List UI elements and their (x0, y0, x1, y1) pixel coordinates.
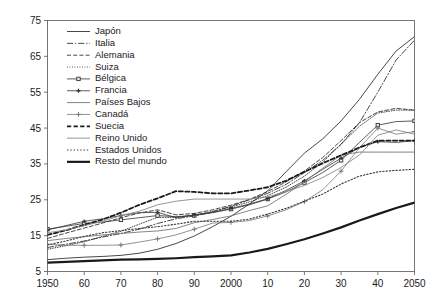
data-point-marker (156, 214, 159, 217)
legend-label: Canadá (95, 108, 129, 119)
legend-label: Resto del mundo (95, 155, 167, 166)
legend-marker (76, 112, 81, 117)
x-axis-tick-label: 2050 (403, 278, 426, 289)
legend-item[interactable]: Bélgica (67, 72, 127, 83)
legend-label: Italia (95, 37, 116, 48)
x-axis-tick-label: 80 (152, 278, 164, 289)
data-point-marker (229, 220, 234, 225)
legend-label: Suiza (95, 61, 119, 72)
x-axis-tick-label: 90 (189, 278, 201, 289)
data-point-marker (192, 227, 197, 232)
x-axis-tick-label: 30 (336, 278, 348, 289)
legend-marker (77, 89, 81, 93)
legend-item[interactable]: Italia (67, 37, 116, 48)
y-axis-tick-label: 65 (30, 51, 42, 62)
legend-item[interactable]: Resto del mundo (67, 155, 167, 166)
legend-item[interactable]: Suiza (67, 61, 119, 72)
legend-label: Francia (95, 84, 127, 95)
y-axis-tick-label: 35 (30, 158, 42, 169)
x-axis-tick-label: 2000 (220, 278, 243, 289)
x-axis-tick-label: 10 (262, 278, 274, 289)
chart-container: 5152535455565751950607080902000102030402… (0, 0, 434, 304)
y-axis-tick-label: 45 (30, 123, 42, 134)
y-axis-tick-label: 75 (30, 15, 42, 26)
x-axis-tick-label: 70 (115, 278, 127, 289)
legend-label: Estados Unidos (95, 144, 162, 155)
legend-item[interactable]: Alemania (67, 49, 135, 60)
legend-label: Alemania (95, 49, 135, 60)
legend-item[interactable]: Reino Unido (67, 132, 147, 143)
x-axis-tick-label: 1950 (36, 278, 59, 289)
y-axis-tick-label: 5 (35, 266, 41, 277)
legend-label: Reino Unido (95, 132, 147, 143)
x-axis-tick-label: 20 (299, 278, 311, 289)
legend-item[interactable]: Países Bajos (67, 96, 151, 107)
y-axis-tick-label: 15 (30, 230, 42, 241)
legend-item[interactable]: Suecia (67, 120, 125, 131)
legend: JapónItaliaAlemaniaSuizaBélgicaFranciaPa… (67, 25, 167, 166)
x-axis-tick-label: 60 (79, 278, 91, 289)
data-point-marker (82, 243, 87, 248)
line-chart: 5152535455565751950607080902000102030402… (0, 0, 434, 304)
data-point-marker (119, 243, 124, 248)
y-axis-tick-label: 55 (30, 87, 42, 98)
legend-item[interactable]: Francia (67, 84, 127, 95)
data-point-marker (155, 236, 160, 241)
data-point-marker (119, 218, 122, 221)
legend-item[interactable]: Japón (67, 25, 121, 36)
legend-label: Japón (95, 25, 121, 36)
y-axis-tick-label: 25 (30, 194, 42, 205)
legend-marker (77, 77, 80, 80)
legend-label: Bélgica (95, 72, 127, 83)
x-axis-tick-label: 40 (372, 278, 384, 289)
legend-item[interactable]: Canadá (67, 108, 129, 119)
legend-label: Países Bajos (95, 96, 151, 107)
legend-label: Suecia (95, 120, 125, 131)
data-point-marker (413, 119, 416, 122)
legend-item[interactable]: Estados Unidos (67, 144, 162, 155)
